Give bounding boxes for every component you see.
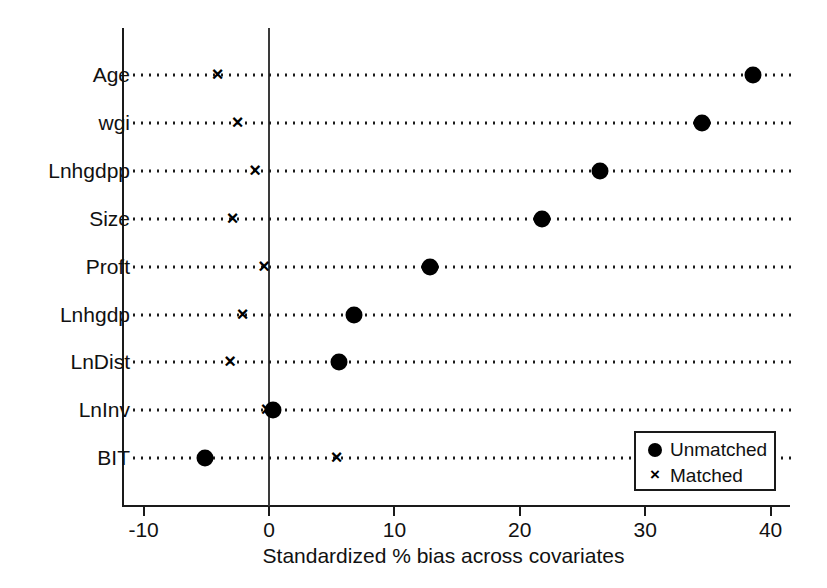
x-tick-label-0: 0: [263, 517, 275, 542]
x-tick-30: [644, 507, 646, 516]
y-axis-label-lnhgdp: Lnhgdp: [60, 303, 130, 327]
filled-circle-icon: [644, 443, 666, 457]
y-axis-label-lninv: LnInv: [79, 398, 130, 422]
data-point-matched-age: [210, 68, 225, 83]
legend-label-matched: Matched: [666, 465, 743, 487]
x-tick-0: [268, 507, 270, 516]
data-point-matched-wgi: [230, 115, 245, 130]
row-gridline: [130, 74, 797, 77]
data-point-unmatched-size: [534, 210, 551, 227]
data-point-matched-lndist: [223, 355, 238, 370]
data-point-unmatched-bit: [197, 450, 214, 467]
y-axis-label-size: Size: [89, 207, 130, 231]
x-tick--10: [143, 507, 145, 516]
x-tick-label-10: 10: [383, 517, 406, 542]
data-point-matched-bit: [329, 451, 344, 466]
x-tick-label-40: 40: [759, 517, 782, 542]
row-gridline: [130, 265, 797, 268]
y-axis-label-age: Age: [93, 63, 130, 87]
data-point-matched-lninv: [259, 403, 274, 418]
chart-legend: Unmatched Matched: [634, 431, 776, 491]
y-axis-label-lndist: LnDist: [70, 350, 130, 374]
data-point-unmatched-lnhgdp: [346, 306, 363, 323]
x-tick-20: [519, 507, 521, 516]
x-tick-label-30: 30: [634, 517, 657, 542]
x-tick-label--10: -10: [128, 517, 158, 542]
data-point-unmatched-lnhgdpp: [592, 162, 609, 179]
row-gridline: [130, 169, 797, 172]
y-axis-label-proft: Proft: [86, 255, 130, 279]
row-gridline: [130, 313, 797, 316]
data-point-unmatched-proft: [421, 258, 438, 275]
legend-item-matched: Matched: [644, 463, 774, 489]
data-point-matched-lnhgdpp: [248, 163, 263, 178]
y-axis-label-bit: BIT: [97, 446, 130, 470]
row-gridline: [130, 409, 797, 412]
y-axis-label-lnhgdpp: Lnhgdpp: [48, 159, 130, 183]
legend-item-unmatched: Unmatched: [644, 437, 774, 463]
y-axis-label-wgi: wgi: [98, 111, 130, 135]
data-point-matched-lnhgdp: [235, 307, 250, 322]
x-tick-label-20: 20: [508, 517, 531, 542]
cross-icon: [644, 469, 666, 483]
x-axis-line: [122, 505, 790, 507]
data-point-unmatched-wgi: [693, 114, 710, 131]
x-tick-40: [770, 507, 772, 516]
data-point-matched-proft: [256, 259, 271, 274]
bias-dot-chart: -10010203040 AgewgiLnhgdppSizeProftLnhgd…: [0, 0, 827, 588]
x-axis-title: Standardized % bias across covariates: [0, 544, 827, 568]
x-tick-10: [393, 507, 395, 516]
data-point-unmatched-age: [745, 67, 762, 84]
legend-label-unmatched: Unmatched: [666, 439, 767, 461]
data-point-unmatched-lndist: [331, 354, 348, 371]
data-point-matched-size: [225, 211, 240, 226]
